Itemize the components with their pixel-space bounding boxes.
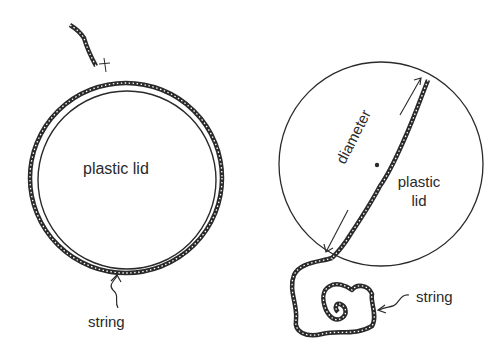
right-string-diameter	[332, 80, 428, 258]
left-string-wrap	[30, 83, 222, 273]
right-plastic-lid	[279, 62, 483, 266]
right-string-label: string	[416, 289, 453, 304]
right-string-pointer	[379, 295, 409, 310]
left-string-end	[70, 25, 96, 66]
left-plastic-lid	[38, 91, 216, 269]
right-string-coil	[292, 258, 374, 335]
left-lid-label: plastic lid	[83, 161, 149, 177]
left-string-label: string	[88, 314, 125, 329]
right-string-diameter-texture	[332, 80, 428, 258]
left-string-pointer	[111, 276, 118, 308]
right-string-knot	[375, 163, 379, 167]
right-lid-label-line2: lid	[394, 193, 444, 208]
left-string-tie-mark	[99, 58, 110, 72]
right-string-coil-texture	[292, 258, 374, 335]
right-lid-label-line1: plastic	[394, 174, 444, 189]
